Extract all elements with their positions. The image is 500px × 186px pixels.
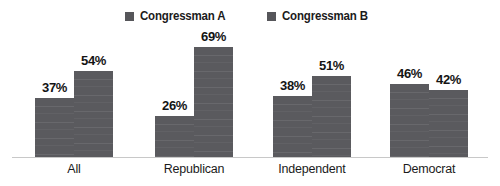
bar-group-independent: 38% 51% Independent (273, 0, 351, 186)
bar-independent-congressman-b: 51% (312, 76, 351, 157)
bars-republican: 26% 69% (155, 25, 233, 157)
bar-value-label: 26% (162, 99, 187, 113)
category-label-republican: Republican (155, 162, 233, 176)
bar-group-republican: 26% 69% Republican (155, 0, 233, 186)
bar-value-label: 38% (280, 79, 305, 93)
plot-area: 37% 54% All 26% 69% Republican (0, 0, 500, 186)
bar-value-label: 37% (42, 81, 67, 95)
bar-value-label: 54% (81, 54, 106, 68)
bar-group-all: 37% 54% All (35, 0, 113, 186)
bar-value-label: 69% (201, 30, 226, 44)
bar-republican-congressman-b: 69% (194, 47, 233, 157)
category-label-independent: Independent (273, 162, 351, 176)
bar-chart: Congressman A Congressman B 37% 54% All (0, 0, 500, 186)
bar-all-congressman-a: 37% (35, 98, 74, 157)
bars-all: 37% 54% (35, 25, 113, 157)
bar-value-label: 42% (436, 73, 461, 87)
bar-all-congressman-b: 54% (74, 71, 113, 157)
category-label-all: All (35, 162, 113, 176)
bar-group-democrat: 46% 42% Democrat (390, 0, 468, 186)
bars-democrat: 46% 42% (390, 25, 468, 157)
bar-republican-congressman-a: 26% (155, 116, 194, 157)
bar-value-label: 51% (319, 59, 344, 73)
bar-democrat-congressman-a: 46% (390, 84, 429, 157)
bar-independent-congressman-a: 38% (273, 96, 312, 157)
category-label-democrat: Democrat (390, 162, 468, 176)
bar-democrat-congressman-b: 42% (429, 90, 468, 157)
bars-independent: 38% 51% (273, 25, 351, 157)
bar-value-label: 46% (397, 67, 422, 81)
